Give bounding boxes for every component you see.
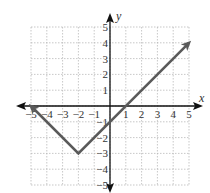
x-tick-label: 5: [186, 108, 192, 120]
x-tick-label: 4: [170, 108, 176, 120]
y-axis-label: y: [115, 9, 122, 23]
y-tick-label: 2: [103, 68, 109, 80]
x-tick-label: 1: [123, 108, 129, 120]
axes: [16, 13, 203, 193]
x-tick-label: 3: [155, 108, 161, 120]
y-tick-label: −3: [96, 147, 108, 159]
y-tick-label: 3: [103, 53, 109, 65]
y-tick-label: 4: [103, 37, 109, 49]
x-axis-label: x: [198, 91, 205, 105]
x-tick-label: 2: [139, 108, 145, 120]
y-tick-label: −5: [96, 179, 108, 191]
x-tick-label: −3: [57, 108, 69, 120]
y-tick-label: 5: [103, 21, 109, 33]
y-tick-label: −4: [96, 163, 108, 175]
y-tick-label: 1: [103, 84, 109, 96]
x-tick-label: −2: [73, 108, 85, 120]
coordinate-plane: −5−4−3−2−11234554321−1−2−3−4−5 x y: [0, 0, 210, 193]
